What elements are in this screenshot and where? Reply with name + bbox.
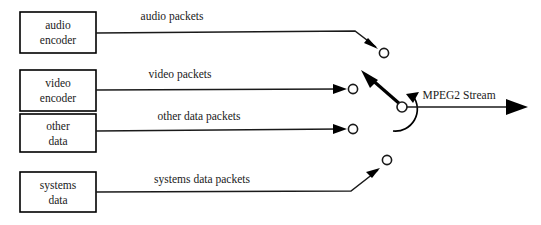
mpeg2-multiplexer-diagram: audio encoder audio packets video encode…: [0, 0, 541, 225]
audio-contact-node: [379, 48, 388, 57]
systems-data-label-line2: data: [48, 194, 67, 206]
other-data-packets-wire: [96, 129, 340, 131]
other-data-label-line1: other: [46, 120, 70, 132]
video-encoder-label-line1: video: [45, 77, 71, 89]
mpeg2-stream-arrowhead: [506, 99, 528, 115]
systems-contact-node: [382, 155, 391, 164]
video-packets-arrowhead: [333, 84, 347, 94]
video-packets-label: video packets: [149, 68, 212, 81]
rotary-selector-switch[interactable]: [361, 70, 419, 131]
video-encoder-label-line2: encoder: [40, 92, 77, 104]
source-block-systems-data: systems data: [20, 172, 96, 212]
other-data-packets-label: other data packets: [157, 110, 241, 123]
source-block-video-encoder: video encoder: [20, 70, 96, 111]
systems-data-packets-arrowhead: [366, 168, 380, 178]
switch-pivot-hub[interactable]: [397, 102, 407, 112]
diagram-canvas: audio encoder audio packets video encode…: [0, 0, 541, 225]
source-block-other-data: other data: [20, 114, 96, 152]
mpeg2-stream-label: MPEG2 Stream: [422, 89, 495, 101]
video-contact-node: [348, 84, 357, 93]
other-data-label-line2: data: [48, 135, 67, 147]
other-data-contact-node: [348, 124, 357, 133]
audio-packets-wire: [96, 31, 376, 47]
systems-data-packets-label: systems data packets: [154, 173, 250, 186]
switch-arm-arrowhead: [361, 70, 378, 88]
other-data-packets-arrowhead: [333, 124, 347, 134]
rotation-arc-arrowhead: [406, 92, 419, 103]
source-block-audio-encoder: audio encoder: [20, 12, 96, 53]
systems-data-label-line1: systems: [40, 179, 77, 192]
audio-encoder-label-line1: audio: [45, 19, 71, 31]
audio-packets-label: audio packets: [141, 10, 204, 23]
audio-encoder-label-line2: encoder: [40, 34, 77, 46]
video-packets-wire: [96, 89, 340, 90]
systems-data-box: [20, 172, 96, 212]
